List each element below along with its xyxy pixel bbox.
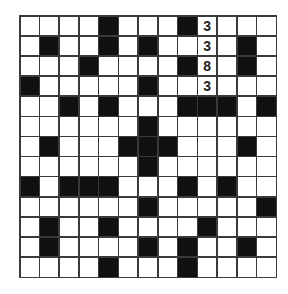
- grid-cell[interactable]: [80, 117, 98, 136]
- grid-cell[interactable]: [21, 17, 39, 36]
- grid-cell[interactable]: [60, 37, 78, 56]
- grid-cell[interactable]: [119, 37, 137, 56]
- grid-cell[interactable]: [159, 177, 177, 196]
- grid-cell[interactable]: [159, 198, 177, 217]
- grid-cell[interactable]: [40, 97, 58, 116]
- grid-cell[interactable]: [257, 177, 275, 196]
- grid-cell[interactable]: [218, 238, 236, 257]
- grid-cell[interactable]: [80, 97, 98, 116]
- grid-cell[interactable]: [21, 258, 39, 277]
- grid-cell[interactable]: [119, 238, 137, 257]
- grid-cell[interactable]: [21, 198, 39, 217]
- grid-cell[interactable]: [60, 77, 78, 96]
- grid-cell[interactable]: [159, 77, 177, 96]
- grid-cell[interactable]: [178, 198, 196, 217]
- grid-cell[interactable]: [119, 97, 137, 116]
- grid-cell[interactable]: [257, 258, 275, 277]
- grid-cell[interactable]: [119, 258, 137, 277]
- grid-cell[interactable]: [257, 137, 275, 156]
- grid-cell[interactable]: [80, 157, 98, 176]
- grid-cell[interactable]: [80, 37, 98, 56]
- grid-cell[interactable]: [119, 177, 137, 196]
- grid-cell[interactable]: [198, 238, 216, 257]
- grid-cell[interactable]: [218, 37, 236, 56]
- grid-cell[interactable]: [21, 137, 39, 156]
- grid-cell[interactable]: [218, 117, 236, 136]
- grid-cell[interactable]: [99, 238, 117, 257]
- grid-cell[interactable]: [99, 137, 117, 156]
- grid-cell[interactable]: [238, 177, 256, 196]
- grid-cell[interactable]: [218, 57, 236, 76]
- grid-cell[interactable]: [257, 117, 275, 136]
- grid-cell[interactable]: [99, 117, 117, 136]
- grid-cell[interactable]: [257, 17, 275, 36]
- grid-cell[interactable]: [21, 157, 39, 176]
- grid-cell[interactable]: [99, 77, 117, 96]
- grid-cell[interactable]: [159, 57, 177, 76]
- grid-cell[interactable]: [60, 157, 78, 176]
- grid-cell[interactable]: [139, 17, 157, 36]
- grid-cell[interactable]: [178, 157, 196, 176]
- grid-cell[interactable]: [139, 218, 157, 237]
- grid-cell[interactable]: 3: [198, 17, 216, 36]
- grid-cell[interactable]: [40, 117, 58, 136]
- grid-cell[interactable]: [238, 198, 256, 217]
- grid-cell[interactable]: [80, 17, 98, 36]
- grid-cell[interactable]: [60, 198, 78, 217]
- grid-cell[interactable]: [257, 157, 275, 176]
- grid-cell[interactable]: [178, 137, 196, 156]
- grid-cell[interactable]: [159, 157, 177, 176]
- grid-cell[interactable]: [159, 17, 177, 36]
- grid-cell[interactable]: [99, 157, 117, 176]
- grid-cell[interactable]: [80, 238, 98, 257]
- grid-cell[interactable]: [218, 137, 236, 156]
- grid-cell[interactable]: [218, 157, 236, 176]
- grid-cell[interactable]: [218, 17, 236, 36]
- grid-cell[interactable]: [218, 218, 236, 237]
- grid-cell[interactable]: [238, 117, 256, 136]
- grid-cell[interactable]: [159, 117, 177, 136]
- grid-cell[interactable]: [119, 198, 137, 217]
- grid-cell[interactable]: [21, 57, 39, 76]
- grid-cell[interactable]: [257, 218, 275, 237]
- grid-cell[interactable]: 3: [198, 77, 216, 96]
- grid-cell[interactable]: [40, 198, 58, 217]
- grid-cell[interactable]: [60, 218, 78, 237]
- grid-cell[interactable]: [139, 258, 157, 277]
- grid-cell[interactable]: [119, 117, 137, 136]
- grid-cell[interactable]: [40, 258, 58, 277]
- grid-cell[interactable]: [198, 177, 216, 196]
- grid-cell[interactable]: [159, 97, 177, 116]
- grid-cell[interactable]: [159, 37, 177, 56]
- grid-cell[interactable]: 3: [198, 37, 216, 56]
- grid-cell[interactable]: [198, 258, 216, 277]
- grid-cell[interactable]: [198, 157, 216, 176]
- grid-cell[interactable]: [40, 17, 58, 36]
- grid-cell[interactable]: [40, 157, 58, 176]
- grid-cell[interactable]: [257, 57, 275, 76]
- grid-cell[interactable]: [257, 77, 275, 96]
- grid-cell[interactable]: [119, 218, 137, 237]
- grid-cell[interactable]: [139, 97, 157, 116]
- grid-cell[interactable]: [21, 218, 39, 237]
- grid-cell[interactable]: [80, 258, 98, 277]
- grid-cell[interactable]: [60, 57, 78, 76]
- grid-cell[interactable]: [119, 17, 137, 36]
- grid-cell[interactable]: [119, 57, 137, 76]
- grid-cell[interactable]: [60, 137, 78, 156]
- grid-cell[interactable]: [238, 77, 256, 96]
- grid-cell[interactable]: [178, 77, 196, 96]
- grid-cell[interactable]: [40, 177, 58, 196]
- grid-cell[interactable]: [238, 218, 256, 237]
- grid-cell[interactable]: [218, 198, 236, 217]
- grid-cell[interactable]: [139, 177, 157, 196]
- grid-cell[interactable]: [80, 137, 98, 156]
- grid-cell[interactable]: [99, 57, 117, 76]
- grid-cell[interactable]: [238, 17, 256, 36]
- grid-cell[interactable]: [21, 117, 39, 136]
- grid-cell[interactable]: [178, 218, 196, 237]
- grid-cell[interactable]: [238, 97, 256, 116]
- grid-cell[interactable]: [60, 117, 78, 136]
- grid-cell[interactable]: [218, 77, 236, 96]
- grid-cell[interactable]: [80, 218, 98, 237]
